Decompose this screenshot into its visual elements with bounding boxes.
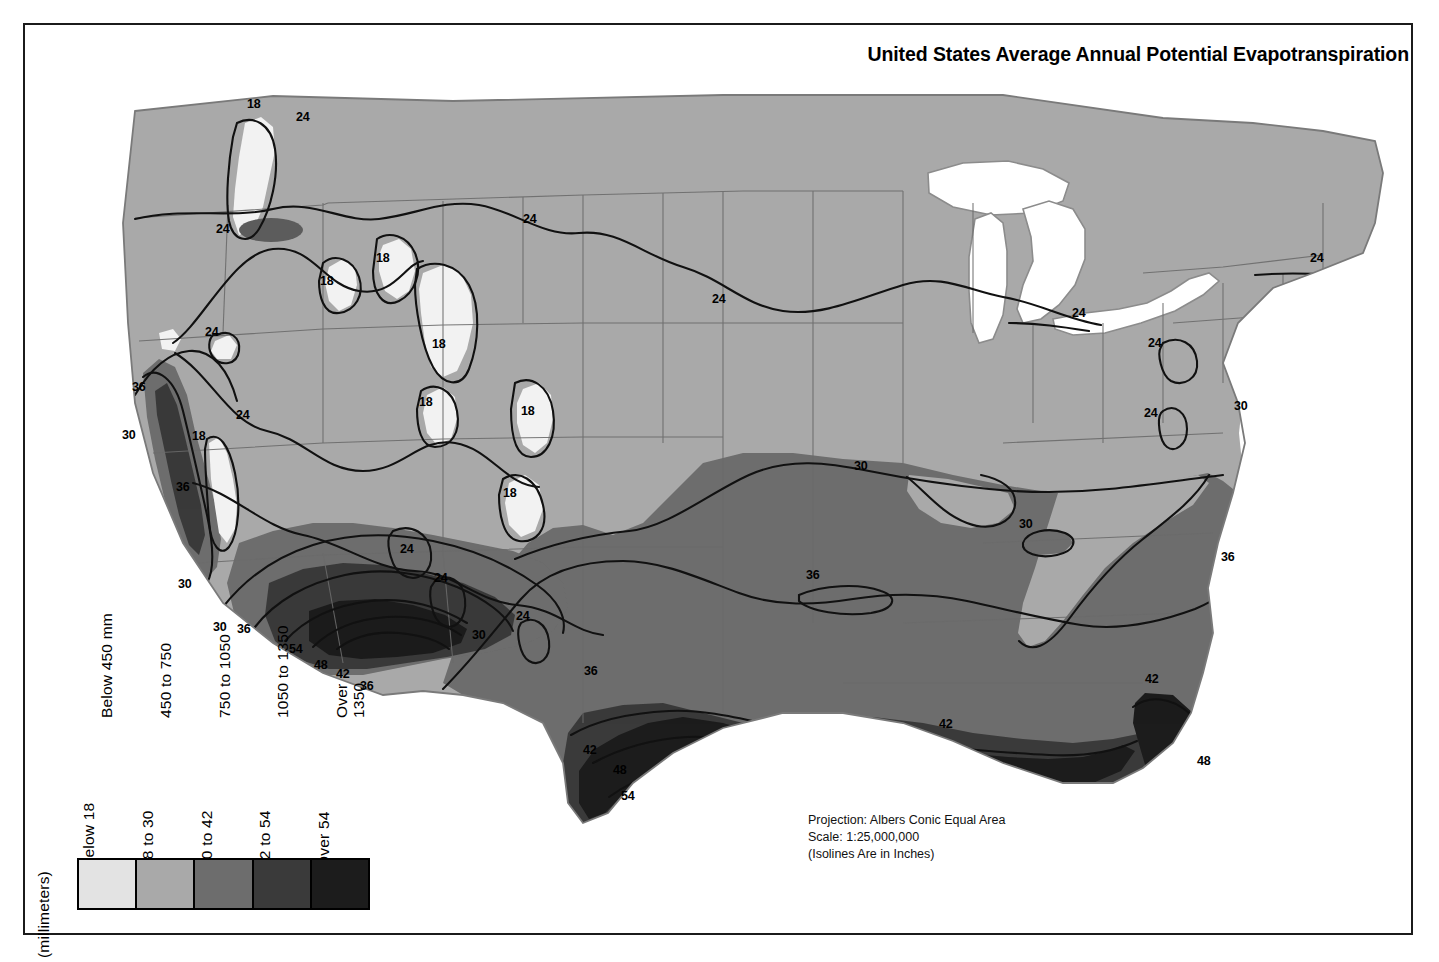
fill-class-over-54-florida [1133,693,1223,861]
isoline-label-18-13: 18 [192,430,206,443]
legend-color-bar [77,858,370,910]
isoline-label-24-35: 24 [516,610,530,623]
isoline-label-24-1: 24 [296,111,310,124]
isoline-label-24-20: 24 [400,543,414,556]
isoline-label-24-27: 24 [1144,407,1158,420]
evapotranspiration-map-figure: 1824241818242424242424363018182418183618… [0,0,1439,962]
legend-swatch-1 [137,860,195,908]
isoline-label-24-5: 24 [523,213,537,226]
isoline-label-24-2: 24 [216,223,230,236]
isoline-label-30-24: 30 [1019,518,1033,531]
isoline-label-18-19: 18 [503,487,517,500]
projection-text: Projection: Albers Conic Equal Area [808,812,1005,829]
page-title: United States Average Annual Potential E… [868,43,1410,66]
isoline-label-54-40: 54 [621,790,635,803]
legend-swatch-0 [79,860,137,908]
legend-swatch-3 [254,860,312,908]
isoline-label-18-16: 18 [419,396,433,409]
isoline-label-42-41: 42 [939,718,953,731]
isoline-label-24-15: 24 [236,409,250,422]
isoline-label-36-37: 36 [806,569,820,582]
isoline-label-24-7: 24 [1072,307,1086,320]
legend-swatch-2 [195,860,253,908]
isoline-label-18-14: 18 [432,338,446,351]
isoline-label-48-43: 48 [1197,755,1211,768]
isoline-label-48-39: 48 [613,764,627,777]
legend-row-label-millimeters: (millimeters) [35,871,53,958]
isoline-label-18-0: 18 [247,98,261,111]
isoline-label-42-42: 42 [1145,673,1159,686]
isoline-label-18-4: 18 [376,252,390,265]
isoline-label-30-21: 30 [178,578,192,591]
legend-swatch-4 [312,860,368,908]
isoline-label-30-34: 30 [472,629,486,642]
map-credits: Projection: Albers Conic Equal Area Scal… [808,812,1005,863]
isoline-label-36-25: 36 [1221,551,1235,564]
isoline-label-36-18: 36 [176,481,190,494]
map-legend: (millimeters) (inches) Below 450 mmBelow… [47,628,387,918]
isoline-label-36-11: 36 [132,381,146,394]
isoline-label-30-26: 30 [1234,400,1248,413]
isoline-label-24-10: 24 [205,326,219,339]
isoline-label-36-36: 36 [584,665,598,678]
scale-text: Scale: 1:25,000,000 [808,829,1005,846]
isoline-note-text: (Isolines Are in Inches) [808,846,1005,863]
isoline-label-24-22: 24 [434,572,448,585]
isoline-label-42-38: 42 [583,744,597,757]
isoline-label-18-17: 18 [521,405,535,418]
isoline-label-30-23: 30 [854,460,868,473]
isoline-label-18-3: 18 [320,275,334,288]
isoline-label-30-12: 30 [122,429,136,442]
isoline-label-24-9: 24 [1148,337,1162,350]
isoline-label-24-8: 24 [1310,252,1324,265]
isoline-label-24-6: 24 [712,293,726,306]
